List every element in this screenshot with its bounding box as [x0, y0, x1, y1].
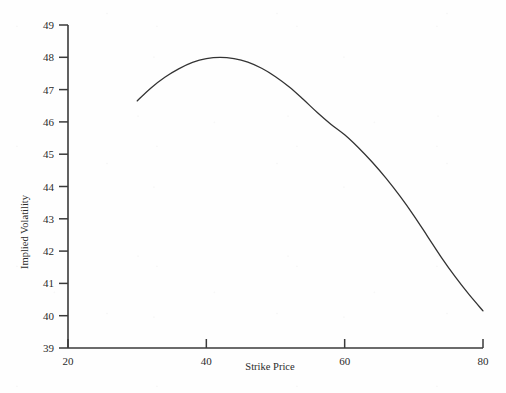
implied-volatility-chart: 3940414243444546474849 20406080 Strike P…	[0, 0, 506, 393]
y-tick-label: 39	[43, 342, 55, 354]
y-axis-ticks	[59, 25, 68, 348]
y-tick-label: 43	[43, 213, 55, 225]
x-tick-label: 80	[478, 355, 490, 367]
y-tick-label: 40	[43, 310, 55, 322]
x-tick-label: 60	[339, 355, 351, 367]
y-tick-label: 44	[43, 181, 55, 193]
axes-group	[68, 25, 483, 348]
x-tick-label: 40	[201, 355, 213, 367]
x-axis-ticks	[68, 339, 483, 348]
y-tick-label: 49	[43, 19, 55, 31]
y-axis-title: Implied Volatility	[19, 194, 30, 269]
y-tick-label: 47	[43, 84, 55, 96]
chart-page: 3940414243444546474849 20406080 Strike P…	[0, 0, 506, 393]
y-tick-label: 46	[43, 116, 55, 128]
x-tick-label: 20	[63, 355, 75, 367]
y-tick-label: 41	[43, 277, 54, 289]
implied-volatility-curve	[137, 57, 483, 311]
y-tick-label: 45	[43, 148, 55, 160]
x-axis-title: Strike Price	[245, 361, 295, 372]
y-axis-tick-labels: 3940414243444546474849	[43, 19, 55, 354]
y-tick-label: 42	[43, 245, 54, 257]
y-tick-label: 48	[43, 51, 55, 63]
